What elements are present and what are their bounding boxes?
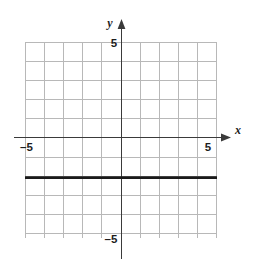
y-axis-tick-label-negative-5: –5 bbox=[105, 233, 118, 245]
y-axis-name-label: y bbox=[105, 16, 113, 30]
x-axis-name-label: x bbox=[234, 123, 241, 137]
coordinate-graph-figure: –5 5 5 –5 x y bbox=[0, 0, 262, 263]
coordinate-plane-svg: –5 5 5 –5 x y bbox=[0, 0, 262, 263]
figure-background bbox=[0, 0, 262, 263]
x-axis-tick-label-negative-5: –5 bbox=[20, 141, 33, 153]
y-axis-tick-label-positive-5: 5 bbox=[111, 37, 118, 49]
x-axis-tick-label-positive-5: 5 bbox=[205, 141, 212, 153]
